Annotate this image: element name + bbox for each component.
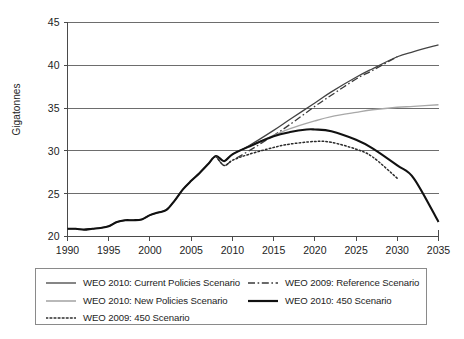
axis-lines (68, 23, 439, 237)
legend-item-weo2009-reference: WEO 2009: Reference Scenario (248, 274, 419, 291)
legend-item-weo2010-current-policies: WEO 2010: Current Policies Scenario (46, 274, 240, 291)
svg-text:40: 40 (48, 59, 60, 71)
svg-text:30: 30 (48, 145, 60, 157)
legend-label: WEO 2010: Current Policies Scenario (83, 277, 240, 288)
legend-swatch-solid-black-thick (248, 295, 278, 307)
svg-text:1990: 1990 (56, 244, 80, 256)
legend-item-weo2009-450: WEO 2009: 450 Scenario (46, 309, 190, 326)
svg-text:2005: 2005 (179, 244, 203, 256)
y-axis-title: Gigatonnes (11, 70, 22, 150)
svg-text:20: 20 (48, 230, 60, 242)
svg-text:2025: 2025 (344, 244, 368, 256)
legend-swatch-solid-light (46, 295, 76, 307)
legend-swatch-solid-dark (46, 277, 76, 289)
svg-text:2035: 2035 (427, 244, 451, 256)
series-line-2 (216, 105, 439, 162)
legend-item-weo2010-new-policies: WEO 2010: New Policies Scenario (46, 292, 228, 309)
svg-text:45: 45 (48, 16, 60, 28)
data-series-group (68, 45, 439, 230)
svg-text:2030: 2030 (386, 244, 410, 256)
legend-swatch-dotted (46, 312, 76, 324)
svg-text:25: 25 (48, 188, 60, 200)
legend-label: WEO 2010: 450 Scenario (285, 295, 392, 306)
legend-label: WEO 2009: 450 Scenario (83, 312, 190, 323)
svg-text:1995: 1995 (97, 244, 121, 256)
svg-text:2000: 2000 (138, 244, 162, 256)
svg-text:2020: 2020 (303, 244, 327, 256)
y-axis-ticks: 202530354045 (48, 16, 68, 242)
legend-item-weo2010-450: WEO 2010: 450 Scenario (248, 292, 392, 309)
svg-text:2015: 2015 (262, 244, 286, 256)
svg-text:35: 35 (48, 102, 60, 114)
series-line-3 (68, 129, 439, 229)
emissions-scenario-chart: 202530354045 199019952000200520102015202… (0, 0, 464, 339)
legend-label: WEO 2009: Reference Scenario (285, 277, 419, 288)
chart-legend: WEO 2010: Current Policies Scenario WEO … (35, 268, 427, 325)
svg-text:2010: 2010 (221, 244, 245, 256)
x-axis-ticks: 1990199520002005201020152020202520302035 (56, 237, 451, 256)
legend-swatch-dashdot (248, 277, 278, 289)
legend-label: WEO 2010: New Policies Scenario (83, 295, 228, 306)
series-line-0 (68, 45, 439, 230)
